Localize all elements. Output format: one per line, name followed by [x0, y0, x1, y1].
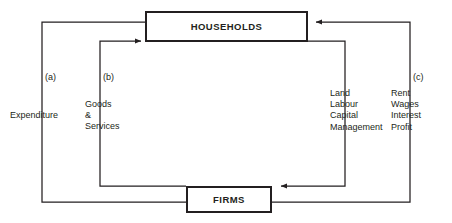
goods-line-2: &	[85, 110, 120, 121]
payments-line-3: Interest	[391, 110, 421, 121]
flow-tag-b: (b)	[103, 72, 114, 82]
payments-line-1: Rent	[391, 88, 421, 99]
payments-line-4: Profit	[391, 122, 421, 133]
firms-box: FIRMS	[186, 186, 272, 213]
households-box: HOUSEHOLDS	[145, 11, 308, 42]
flow-tag-a: (a)	[45, 72, 56, 82]
expenditure-line-1: Expenditure	[10, 110, 58, 121]
goods-line-3: Services	[85, 121, 120, 132]
firms-label: FIRMS	[213, 194, 245, 205]
households-label: HOUSEHOLDS	[191, 21, 263, 32]
flow-label-factor-services: Land Labour Capital Management	[330, 88, 383, 133]
factors-line-1: Land	[330, 88, 383, 99]
flow-tag-c: (c)	[413, 72, 424, 82]
factors-line-3: Capital	[330, 110, 383, 121]
payments-line-2: Wages	[391, 99, 421, 110]
goods-line-1: Goods	[85, 99, 120, 110]
flow-label-goods-services: Goods & Services	[85, 99, 120, 133]
factors-line-2: Labour	[330, 99, 383, 110]
flow-label-factor-payments: Rent Wages Interest Profit	[391, 88, 421, 133]
flow-label-expenditure: Expenditure	[10, 110, 58, 121]
factors-line-4: Management	[330, 122, 383, 133]
flow-path-expenditure	[42, 22, 270, 202]
circular-flow-diagram: HOUSEHOLDS FIRMS (a) (b) (c) Expenditure…	[0, 0, 452, 223]
